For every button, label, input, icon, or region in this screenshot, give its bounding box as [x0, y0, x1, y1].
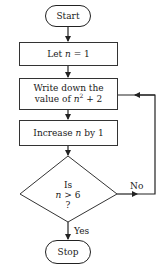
init-node: Let n = 1 — [19, 42, 118, 66]
increase-node: Increase n by 1 — [19, 120, 118, 146]
write-line2: value of n2 + 2 — [35, 94, 103, 105]
stop-label: Stop — [58, 247, 79, 258]
write-line1: Write down the — [33, 83, 103, 94]
decision-label: Is n > 6 ? — [48, 180, 88, 210]
increase-label: Increase n by 1 — [33, 128, 103, 139]
start-label: Start — [56, 11, 79, 22]
stop-node: Stop — [45, 240, 91, 264]
init-label: Let n = 1 — [47, 49, 90, 60]
no-label: No — [130, 181, 143, 191]
start-node: Start — [45, 5, 91, 27]
loop-back-line — [118, 95, 155, 194]
write-node: Write down the value of n2 + 2 — [19, 78, 118, 110]
yes-label: Yes — [74, 226, 89, 236]
